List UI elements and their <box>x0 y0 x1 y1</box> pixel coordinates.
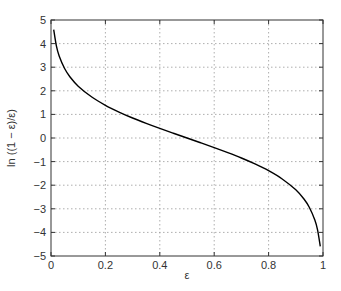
y-tick-label: −2 <box>33 179 46 191</box>
y-tick-label: −4 <box>33 226 46 238</box>
x-tick-label: 0.8 <box>261 259 276 271</box>
x-tick-label: 0.2 <box>98 259 113 271</box>
x-tick-label: 1 <box>320 259 326 271</box>
x-tick-label: 0 <box>48 259 54 271</box>
y-axis-label: ln ((1 − ε)/ε) <box>5 109 17 167</box>
y-tick-label: −5 <box>33 250 46 262</box>
chart: 00.20.40.60.81 543210−1−2−3−4−5 ε ln ((1… <box>0 0 341 291</box>
x-axis-label: ε <box>185 269 190 281</box>
x-tick-label: 0.4 <box>152 259 167 271</box>
y-tick-label: −1 <box>33 156 46 168</box>
y-tick-label: 3 <box>40 61 46 73</box>
y-tick-label: 2 <box>40 85 46 97</box>
y-tick-label: 0 <box>40 132 46 144</box>
y-tick-label: 4 <box>40 38 46 50</box>
x-tick-label: 0.6 <box>207 259 222 271</box>
y-tick-label: 1 <box>40 108 46 120</box>
y-tick-label: 5 <box>40 14 46 26</box>
y-tick-label: −3 <box>33 203 46 215</box>
y-tick-labels: 543210−1−2−3−4−5 <box>33 14 46 262</box>
